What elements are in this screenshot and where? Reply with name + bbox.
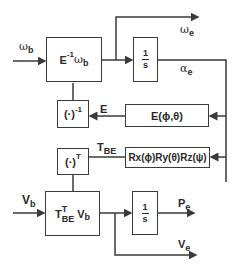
fraction: 1s xyxy=(142,49,149,70)
omega-e-label: ωe xyxy=(180,23,194,36)
tbe-transpose-vb-block: T T BE Vb xyxy=(45,191,100,236)
transpose-block: (·)T xyxy=(57,148,89,175)
e-inverse-omega-block: E-1ωb xyxy=(46,37,102,82)
p-e-label: Pe xyxy=(178,197,190,209)
v-e-label: Ve xyxy=(178,238,190,250)
v-b-label: Vb xyxy=(22,193,36,207)
alpha-e-label: αe xyxy=(180,62,192,75)
t-be-signal-label: TBE xyxy=(97,141,116,153)
e-signal-label: E xyxy=(100,103,107,115)
fraction: 1s xyxy=(142,203,149,224)
integrator-bottom-block: 1s xyxy=(132,191,158,235)
rotation-matrix-block: Rx(ϕ)Ry(θ)Rz(ψ) xyxy=(125,147,210,168)
omega-b-label: ωb xyxy=(19,40,33,53)
e-matrix-block: E(ϕ,θ) xyxy=(125,104,209,127)
wire-layer xyxy=(0,0,238,270)
inverse-block: (·)-1 xyxy=(57,100,89,128)
integrator-top-block: 1s xyxy=(133,37,158,82)
